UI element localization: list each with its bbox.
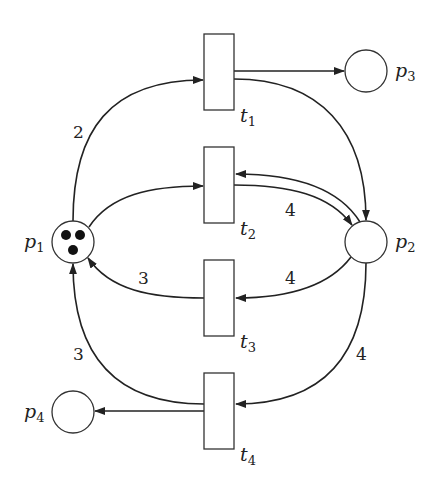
petri-net-diagram: p1 p2 p3 p4 t1 t2 t3 t4 2 4 4 3 3 4 — [0, 0, 444, 480]
arc-p2-t2 — [236, 174, 360, 222]
arc-p1-t1 — [73, 80, 203, 221]
transition-t3 — [204, 260, 234, 336]
label-t3: t3 — [240, 330, 256, 355]
label-t4: t4 — [240, 443, 256, 468]
weight-p2-t3: 4 — [285, 268, 296, 288]
weight-t2-p2: 4 — [285, 200, 296, 220]
place-p4 — [52, 391, 94, 433]
label-t2: t2 — [240, 217, 256, 242]
place-p2 — [345, 221, 387, 263]
arc-p2-t4 — [236, 263, 366, 404]
label-p3: p3 — [395, 59, 415, 84]
weight-t4-p1: 3 — [73, 344, 84, 364]
place-p1 — [52, 221, 94, 263]
transition-t1 — [204, 34, 234, 110]
transition-t2 — [204, 147, 234, 223]
token-icon — [75, 230, 85, 240]
weight-t3-p1: 3 — [138, 268, 149, 288]
arcs — [73, 71, 366, 411]
label-t1: t1 — [240, 104, 256, 129]
transition-t4 — [204, 373, 234, 449]
arc-t1-p2 — [234, 79, 366, 220]
arc-p1-t2 — [89, 186, 203, 227]
weight-p2-t4: 4 — [356, 344, 367, 364]
label-p4: p4 — [24, 400, 44, 425]
transitions — [204, 34, 234, 449]
weight-p1-t1: 2 — [73, 122, 84, 142]
token-icon — [61, 230, 71, 240]
token-icon — [68, 245, 78, 255]
label-p1: p1 — [24, 230, 44, 255]
place-p3 — [345, 50, 387, 92]
label-p2: p2 — [395, 230, 415, 255]
